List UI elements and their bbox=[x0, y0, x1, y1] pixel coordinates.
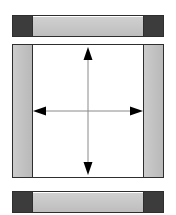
bottom-flange-bar bbox=[12, 191, 164, 213]
central-web-panel bbox=[12, 44, 164, 178]
top-bar-web bbox=[33, 16, 143, 36]
bottom-bar-web bbox=[33, 192, 143, 212]
horizontal-arrow-head-right bbox=[130, 107, 143, 116]
top-bar-left-cap bbox=[13, 16, 33, 36]
top-bar-right-cap bbox=[143, 16, 163, 36]
top-flange-bar bbox=[12, 15, 164, 37]
bottom-bar-right-cap bbox=[143, 192, 163, 212]
diagram-canvas bbox=[0, 0, 176, 215]
bottom-bar-left-cap bbox=[13, 192, 33, 212]
horizontal-arrow-head-left bbox=[33, 107, 46, 116]
horizontal-dimension-arrow bbox=[13, 45, 163, 177]
